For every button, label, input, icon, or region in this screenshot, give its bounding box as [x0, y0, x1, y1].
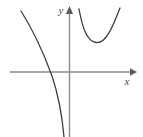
curve-right-branch — [79, 8, 120, 43]
graph-canvas: y x — [0, 0, 143, 137]
y-axis-arrow-icon — [66, 6, 73, 14]
math-graph-figure: y x — [0, 0, 143, 137]
x-axis-arrow-icon — [130, 68, 137, 76]
x-axis-label: x — [124, 75, 130, 87]
curve-left-branch — [21, 11, 64, 137]
y-axis-label: y — [58, 4, 64, 16]
